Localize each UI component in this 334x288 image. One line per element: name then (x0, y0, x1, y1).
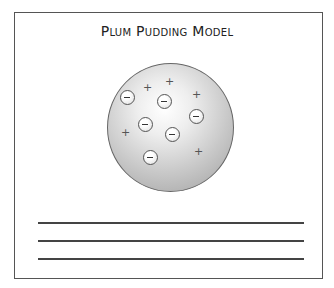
proton-plus-icon: + (194, 146, 203, 157)
answer-line-3 (38, 258, 304, 260)
electron-minus-icon (120, 90, 135, 105)
answer-line-1 (38, 222, 304, 224)
answer-line-2 (38, 240, 304, 242)
proton-plus-icon: + (165, 76, 174, 87)
electron-minus-icon (138, 117, 153, 132)
proton-plus-icon: + (192, 89, 201, 100)
electron-minus-icon (143, 150, 158, 165)
electron-minus-icon (165, 127, 180, 142)
proton-plus-icon: + (143, 82, 152, 93)
electron-minus-icon (157, 94, 172, 109)
proton-plus-icon: + (121, 127, 130, 138)
diagram-title: Plum Pudding Model (0, 23, 334, 39)
electron-minus-icon (189, 109, 204, 124)
